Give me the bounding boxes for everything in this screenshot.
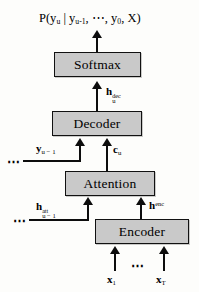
edge-recurrent-h-horizontal xyxy=(29,219,89,221)
ellipsis-recurrent-h: ⋯ xyxy=(13,214,27,227)
edge-xT-to-encoder xyxy=(163,253,165,271)
edge-x1-to-encoder xyxy=(114,253,116,271)
node-encoder[interactable]: Encoder xyxy=(95,219,189,244)
label-h-att: hattu − 1 xyxy=(36,201,42,212)
node-softmax-label: Softmax xyxy=(74,57,121,73)
label-x-1-base: x xyxy=(107,273,113,285)
arrowhead-decoder-to-softmax xyxy=(92,81,102,89)
edge-attention-to-decoder xyxy=(106,145,108,172)
formula-tail: , X) xyxy=(121,11,140,25)
label-h-att-sub: u − 1 xyxy=(42,213,56,220)
label-x-T: xT xyxy=(156,274,166,285)
arrowhead-y-to-decoder xyxy=(75,138,85,146)
label-x-T-sub: T xyxy=(162,279,166,286)
formula-bar-sub: u-1 xyxy=(75,17,85,26)
arrowhead-encoder-to-attention xyxy=(136,197,146,205)
arrowhead-softmax-to-output xyxy=(92,30,102,38)
arrowhead-x1-to-encoder xyxy=(110,246,120,254)
edge-recurrent-y-horizontal xyxy=(23,160,81,162)
label-h-dec: hdecu xyxy=(106,86,112,97)
formula-ellipsis: , ⋯, y xyxy=(86,11,118,25)
label-c-u: cu xyxy=(113,144,121,155)
edge-decoder-to-softmax xyxy=(96,88,98,111)
node-attention-label: Attention xyxy=(84,176,137,192)
arrowhead-xT-to-encoder xyxy=(159,246,169,254)
edge-softmax-to-output xyxy=(96,36,98,53)
label-y-prev-base: y xyxy=(36,142,42,154)
label-y-prev: yu − 1 xyxy=(36,143,56,154)
formula-p-sub: u xyxy=(56,17,60,26)
edge-recurrent-y-vertical xyxy=(79,145,81,162)
label-y-prev-sub: u − 1 xyxy=(42,148,56,155)
formula-p-open: P(y xyxy=(39,11,56,25)
label-h-enc-sup: enc xyxy=(155,200,164,207)
formula-zero-sub: 0 xyxy=(117,17,121,26)
ellipsis-inputs: ⋯ xyxy=(131,259,145,272)
output-probability-formula: P(yu | yu-1, ⋯, y0, X) xyxy=(39,12,141,25)
node-encoder-label: Encoder xyxy=(119,224,165,240)
ellipsis-recurrent-y: ⋯ xyxy=(7,155,21,168)
label-x-1: x1 xyxy=(107,274,116,285)
node-decoder-label: Decoder xyxy=(73,116,120,132)
node-softmax[interactable]: Softmax xyxy=(54,52,141,77)
arrowhead-attention-to-decoder xyxy=(102,138,112,146)
figure-canvas: P(yu | yu-1, ⋯, y0, X) Softmax hdecu Dec… xyxy=(0,0,199,292)
formula-bar: | y xyxy=(60,11,75,25)
arrowhead-h-att-to-attention xyxy=(83,197,93,205)
label-x-T-base: x xyxy=(156,273,162,285)
label-h-enc: henc xyxy=(149,200,164,211)
label-c-u-sub: u xyxy=(118,149,121,156)
node-attention[interactable]: Attention xyxy=(65,171,155,196)
label-h-dec-sub: u xyxy=(112,98,115,105)
node-decoder[interactable]: Decoder xyxy=(52,111,142,136)
edge-recurrent-h-vertical xyxy=(87,204,89,221)
label-x-1-sub: 1 xyxy=(113,279,116,286)
